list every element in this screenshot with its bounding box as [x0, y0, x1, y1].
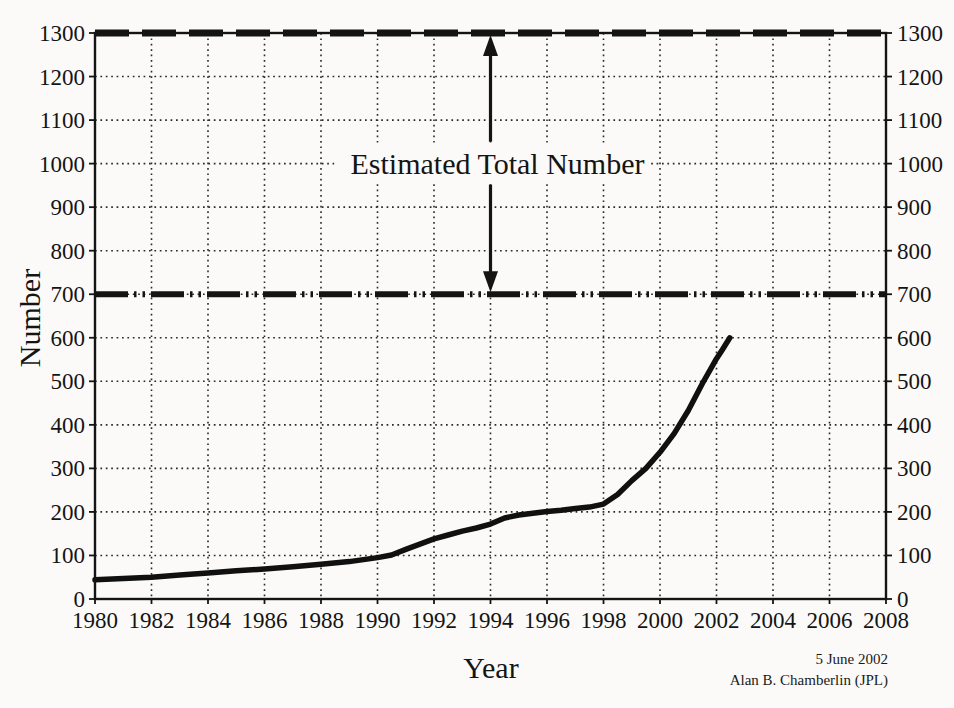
footer-credit: Alan B. Chamberlin (JPL): [730, 671, 888, 690]
svg-text:2006: 2006: [807, 608, 853, 633]
svg-text:900: 900: [51, 195, 86, 220]
svg-text:1998: 1998: [581, 608, 627, 633]
svg-text:1200: 1200: [897, 65, 943, 90]
svg-text:100: 100: [51, 543, 86, 568]
footer-date: 5 June 2002: [816, 650, 889, 669]
svg-text:2008: 2008: [863, 608, 909, 633]
svg-text:1300: 1300: [39, 21, 85, 46]
annotation-label: Estimated Total Number: [351, 147, 645, 180]
svg-text:1980: 1980: [72, 608, 118, 633]
svg-text:1000: 1000: [39, 152, 85, 177]
svg-text:600: 600: [51, 326, 86, 351]
svg-text:300: 300: [51, 456, 86, 481]
svg-text:100: 100: [897, 543, 932, 568]
svg-text:2004: 2004: [750, 608, 797, 633]
svg-text:1990: 1990: [355, 608, 401, 633]
y-axis-labels-right: 0100200300400500600700800900100011001200…: [897, 21, 943, 612]
svg-text:1984: 1984: [185, 608, 232, 633]
svg-text:500: 500: [51, 369, 86, 394]
svg-text:1988: 1988: [298, 608, 344, 633]
svg-text:1996: 1996: [524, 608, 570, 633]
svg-text:2000: 2000: [637, 608, 683, 633]
svg-text:2002: 2002: [694, 608, 740, 633]
svg-text:400: 400: [51, 413, 86, 438]
x-axis-title: Year: [463, 651, 518, 685]
svg-text:1300: 1300: [897, 21, 943, 46]
svg-text:1992: 1992: [411, 608, 457, 633]
svg-text:1100: 1100: [40, 108, 85, 133]
svg-text:400: 400: [897, 413, 932, 438]
svg-text:1100: 1100: [897, 108, 942, 133]
x-axis-labels: 1980198219841986198819901992199419961998…: [72, 608, 909, 633]
svg-text:300: 300: [897, 456, 932, 481]
svg-text:200: 200: [897, 500, 932, 525]
svg-text:800: 800: [51, 239, 86, 264]
svg-text:1982: 1982: [129, 608, 175, 633]
line-chart: Estimated Total Number010020030040050060…: [0, 0, 954, 708]
svg-text:600: 600: [897, 326, 932, 351]
svg-text:700: 700: [897, 282, 932, 307]
svg-text:1994: 1994: [468, 608, 515, 633]
svg-text:500: 500: [897, 369, 932, 394]
svg-text:1986: 1986: [242, 608, 288, 633]
svg-text:200: 200: [51, 500, 86, 525]
chart-figure: Estimated Total Number010020030040050060…: [0, 0, 954, 708]
svg-text:900: 900: [897, 195, 932, 220]
known-count-curve: [95, 338, 730, 580]
svg-text:1000: 1000: [897, 152, 943, 177]
svg-text:800: 800: [897, 239, 932, 264]
y-axis-title: Number: [13, 269, 47, 367]
svg-text:1200: 1200: [39, 65, 85, 90]
svg-text:700: 700: [51, 282, 86, 307]
